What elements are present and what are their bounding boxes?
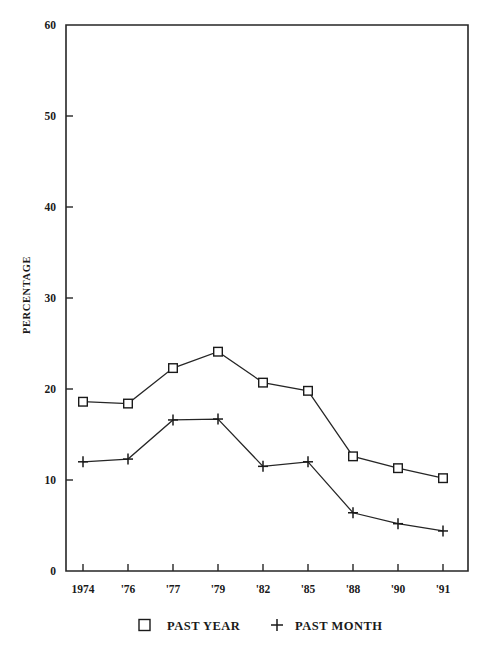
- y-tick-label: 40: [45, 201, 57, 213]
- data-point: [304, 387, 313, 396]
- y-axis: 0102030405060: [45, 19, 74, 577]
- data-point: [79, 397, 88, 406]
- chart-legend: PAST YEARPAST MONTH: [139, 619, 383, 633]
- x-tick-label: '91: [436, 583, 451, 595]
- x-tick-label: '77: [166, 583, 181, 595]
- data-point: [438, 525, 448, 536]
- data-point: [394, 464, 403, 473]
- x-tick-label: 1974: [72, 583, 95, 595]
- legend-label-past-month: PAST MONTH: [295, 619, 383, 633]
- y-tick-label: 50: [45, 110, 57, 122]
- series-line: [83, 419, 443, 531]
- x-tick-label: '90: [391, 583, 406, 595]
- data-point: [349, 452, 358, 461]
- x-tick-label: '79: [211, 583, 226, 595]
- data-point: [393, 518, 403, 529]
- y-tick-label: 60: [45, 19, 57, 31]
- y-axis-title: PERCENTAGE: [21, 256, 32, 334]
- x-tick-label: '88: [346, 583, 361, 595]
- x-tick-label: '85: [301, 583, 316, 595]
- plot-frame: [66, 25, 468, 571]
- x-tick-label: '76: [121, 583, 136, 595]
- y-tick-label: 20: [45, 383, 57, 395]
- data-point: [124, 399, 133, 408]
- y-tick-label: 0: [50, 565, 56, 577]
- line-chart: 0102030405060PERCENTAGE1974'76'77'79'82'…: [0, 0, 485, 648]
- legend-label-past-year: PAST YEAR: [167, 619, 241, 633]
- x-axis: 1974'76'77'79'82'85'88'90'91: [72, 564, 451, 595]
- y-tick-label: 30: [45, 292, 57, 304]
- data-point: [78, 456, 88, 467]
- series-line: [83, 352, 443, 478]
- data-point: [214, 347, 223, 356]
- chart-figure: 0102030405060PERCENTAGE1974'76'77'79'82'…: [0, 0, 485, 648]
- data-point: [439, 474, 448, 483]
- series-2: [78, 414, 448, 537]
- legend-square-marker-icon: [139, 620, 150, 631]
- data-point: [169, 364, 178, 373]
- data-point: [259, 378, 268, 387]
- y-tick-label: 10: [45, 474, 57, 486]
- x-tick-label: '82: [256, 583, 271, 595]
